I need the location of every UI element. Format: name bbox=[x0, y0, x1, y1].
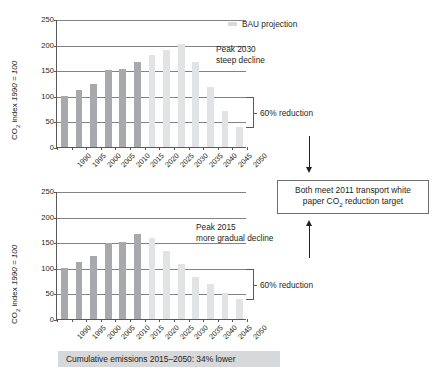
x-tick-label-2020: 2020 bbox=[164, 324, 181, 341]
reduction-bracket-top bbox=[246, 97, 254, 128]
x-tick-label-2020: 2020 bbox=[164, 152, 181, 169]
x-tick-label-2030: 2030 bbox=[193, 152, 210, 169]
x-tick-label-1995: 1995 bbox=[91, 324, 108, 341]
bar-1995 bbox=[76, 90, 83, 147]
x-tick-label-2040: 2040 bbox=[222, 324, 239, 341]
x-tick-mark bbox=[159, 147, 160, 150]
x-tick-mark bbox=[115, 319, 116, 322]
x-tick-mark bbox=[72, 319, 73, 322]
x-tick-label-2015: 2015 bbox=[149, 324, 166, 341]
y-tick-mark bbox=[54, 71, 57, 72]
x-tick-mark bbox=[145, 147, 146, 150]
x-tick-mark bbox=[57, 147, 58, 150]
annotation-top: Peak 2030 steep decline bbox=[216, 44, 265, 66]
x-tick-mark bbox=[232, 319, 233, 322]
bar-2035 bbox=[192, 62, 199, 147]
bar-2020 bbox=[149, 238, 156, 319]
y-tick-mark bbox=[54, 46, 57, 47]
annotation-top-line2: steep decline bbox=[216, 55, 265, 66]
y-tick-mark bbox=[54, 97, 57, 98]
arrow-down-head bbox=[306, 167, 312, 173]
y-tick-label: 50 bbox=[46, 291, 54, 299]
cumulative-emissions-caption-text: Cumulative emissions 2015–2050: 34% lowe… bbox=[66, 354, 235, 365]
bar-2030 bbox=[178, 44, 185, 147]
cumulative-emissions-caption: Cumulative emissions 2015–2050: 34% lowe… bbox=[58, 351, 280, 367]
x-tick-label-2000: 2000 bbox=[105, 152, 122, 169]
x-tick-mark bbox=[189, 147, 190, 150]
bar-2000 bbox=[90, 84, 97, 147]
gridline bbox=[57, 20, 246, 21]
bar-2030 bbox=[178, 264, 185, 319]
legend-bau: BAU projection bbox=[228, 19, 297, 29]
x-tick-mark bbox=[189, 319, 190, 322]
y-tick-label: 250 bbox=[41, 16, 54, 24]
bar-2025 bbox=[163, 50, 170, 147]
y-tick-mark bbox=[54, 192, 57, 193]
x-tick-mark bbox=[86, 147, 87, 150]
y-tick-mark bbox=[54, 218, 57, 219]
target-callout-line1: Both meet 2011 transport white bbox=[295, 185, 411, 195]
y-axis-title-bottom: CO2 index 1990 = 100 bbox=[10, 245, 21, 324]
y-axis-title-top: CO2 index 1990 = 100 bbox=[10, 61, 21, 140]
annotation-top-line1: Peak 2030 bbox=[216, 44, 265, 55]
x-tick-label-2040: 2040 bbox=[222, 152, 239, 169]
x-tick-label-2050: 2050 bbox=[251, 324, 268, 341]
x-tick-mark bbox=[203, 147, 204, 150]
x-tick-mark bbox=[247, 319, 248, 322]
bar-2000 bbox=[90, 256, 97, 319]
x-tick-mark bbox=[247, 147, 248, 150]
x-tick-mark bbox=[86, 319, 87, 322]
x-tick-label-2045: 2045 bbox=[237, 324, 254, 341]
bar-2010 bbox=[119, 69, 126, 147]
legend-swatch-bau bbox=[228, 22, 237, 26]
x-tick-mark bbox=[232, 147, 233, 150]
reduction-bracket-nub-top bbox=[253, 113, 257, 114]
annotation-bottom-line1: Peak 2015 bbox=[196, 222, 273, 233]
arrow-up-line bbox=[309, 226, 310, 258]
x-tick-mark bbox=[218, 319, 219, 322]
x-tick-label-2005: 2005 bbox=[120, 152, 137, 169]
x-tick-label-2000: 2000 bbox=[105, 324, 122, 341]
y-tick-label: 50 bbox=[46, 119, 54, 127]
bar-2040 bbox=[207, 284, 214, 319]
bar-2020 bbox=[149, 55, 156, 147]
x-tick-mark bbox=[203, 319, 204, 322]
x-tick-mark bbox=[101, 319, 102, 322]
x-tick-mark bbox=[145, 319, 146, 322]
figure-root: CO2 index 1990 = 100 050100150200250 199… bbox=[0, 0, 432, 377]
target-callout-line2-pre: paper CO bbox=[303, 196, 339, 206]
x-tick-label-1990: 1990 bbox=[76, 152, 93, 169]
plot-area-bottom: 050100150200250 bbox=[56, 192, 246, 320]
x-tick-mark bbox=[174, 319, 175, 322]
arrow-up-head bbox=[306, 220, 312, 226]
bar-1990 bbox=[61, 268, 68, 319]
bar-2040 bbox=[207, 87, 214, 147]
bar-2045 bbox=[222, 111, 229, 147]
y-tick-mark bbox=[54, 294, 57, 295]
bar-2015 bbox=[134, 62, 141, 147]
x-tick-label-2045: 2045 bbox=[237, 152, 254, 169]
y-tick-label: 250 bbox=[41, 188, 54, 196]
chart-panel-bottom: CO2 index 1990 = 100 050100150200250 199… bbox=[0, 186, 270, 364]
x-tick-mark bbox=[218, 147, 219, 150]
gridline bbox=[57, 218, 246, 219]
y-tick-mark bbox=[54, 122, 57, 123]
x-tick-label-1995: 1995 bbox=[91, 152, 108, 169]
annotation-bottom-line2: more gradual decline bbox=[196, 233, 273, 244]
x-tick-mark bbox=[115, 147, 116, 150]
gridline bbox=[57, 192, 246, 193]
bar-1995 bbox=[76, 262, 83, 319]
bar-2035 bbox=[192, 277, 199, 319]
x-tick-label-2050: 2050 bbox=[251, 152, 268, 169]
x-tick-mark bbox=[159, 319, 160, 322]
reduction-bracket-nub-bottom bbox=[253, 285, 257, 286]
bar-2010 bbox=[119, 242, 126, 319]
arrow-down-line bbox=[309, 136, 310, 168]
x-tick-label-2025: 2025 bbox=[178, 152, 195, 169]
bar-1990 bbox=[61, 96, 68, 147]
x-tick-mark bbox=[130, 319, 131, 322]
reduction-label-top: 60% reduction bbox=[260, 108, 313, 118]
bar-2015 bbox=[134, 234, 141, 319]
y-tick-label: 200 bbox=[41, 214, 54, 222]
reduction-bracket-bottom bbox=[246, 269, 254, 300]
